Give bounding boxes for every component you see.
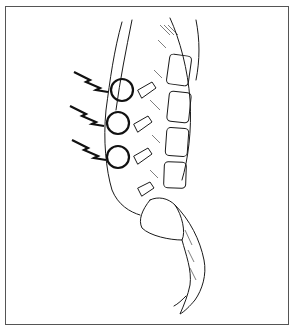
vertebral-bodies	[164, 54, 192, 189]
lightning-bolt-icon	[70, 106, 104, 126]
sacrum-tail	[175, 205, 205, 314]
lightning-bolt-icon	[72, 140, 106, 160]
spine-illustration	[0, 0, 300, 331]
hatching	[150, 25, 196, 280]
sacrum	[140, 198, 183, 240]
pain-marker-upper	[74, 72, 133, 101]
back-outline	[105, 22, 140, 215]
pain-marker-lower	[72, 140, 129, 168]
spinous-processes	[134, 82, 156, 196]
lightning-bolt-icon	[74, 72, 108, 92]
pain-marker-middle	[70, 106, 129, 134]
pain-markers	[70, 72, 133, 168]
